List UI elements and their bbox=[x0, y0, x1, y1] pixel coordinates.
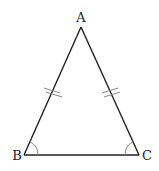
angle-arc-c bbox=[125, 142, 133, 155]
vertex-label-a: A bbox=[75, 10, 86, 25]
isosceles-triangle-diagram: A B C bbox=[0, 0, 159, 171]
vertex-label-b: B bbox=[12, 148, 22, 163]
angle-arc-b bbox=[30, 142, 38, 155]
vertex-label-c: C bbox=[142, 148, 152, 163]
